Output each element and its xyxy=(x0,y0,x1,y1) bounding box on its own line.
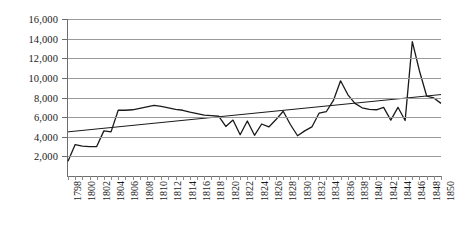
gridline xyxy=(68,137,441,138)
x-axis-tick-label: 1826 xyxy=(273,181,284,201)
x-axis-tick xyxy=(68,176,69,180)
y-axis-tick-label: 14,000 xyxy=(29,33,58,44)
x-axis-tick xyxy=(154,176,155,180)
x-axis-tick xyxy=(355,176,356,180)
x-axis-tick xyxy=(434,176,435,180)
x-axis-tick-label: 1844 xyxy=(402,181,413,201)
y-axis-tick-label: 4,000 xyxy=(34,131,58,142)
x-axis-tick xyxy=(168,176,169,180)
y-axis-tick-label: 10,000 xyxy=(29,72,58,83)
y-axis-tick xyxy=(62,117,68,118)
y-axis-tick-label: 6,000 xyxy=(34,112,58,123)
line-chart: 16,00014,00012,00010,0008,0006,0004,0002… xyxy=(0,0,462,225)
x-axis-tick-label: 1824 xyxy=(259,181,270,201)
x-axis-tick-label: 1848 xyxy=(431,181,442,201)
x-axis-tick xyxy=(362,176,363,180)
y-axis-tick-label: 8,000 xyxy=(34,92,58,103)
x-axis-tick-label: 1828 xyxy=(287,181,298,201)
x-axis-tick-label: 1830 xyxy=(302,181,313,201)
x-axis-tick xyxy=(125,176,126,180)
x-axis-tick-label: 1814 xyxy=(187,181,198,201)
x-axis-tick xyxy=(211,176,212,180)
x-axis-tick-label: 1802 xyxy=(101,181,112,201)
x-axis-tick xyxy=(305,176,306,180)
x-axis-tick xyxy=(376,176,377,180)
y-axis-tick xyxy=(62,137,68,138)
x-axis-tick-label: 1804 xyxy=(115,181,126,201)
y-axis-tick xyxy=(62,156,68,157)
gridline xyxy=(68,156,441,157)
x-axis-tick-label: 1818 xyxy=(215,181,226,201)
y-axis-tick xyxy=(62,98,68,99)
x-axis-tick xyxy=(427,176,428,180)
gridline xyxy=(68,58,441,59)
x-axis-tick xyxy=(276,176,277,180)
x-axis-tick xyxy=(333,176,334,180)
x-axis-tick xyxy=(183,176,184,180)
x-axis-tick-label: 1822 xyxy=(244,181,255,201)
y-axis-tick xyxy=(62,39,68,40)
x-axis-tick xyxy=(405,176,406,180)
x-axis-tick xyxy=(298,176,299,180)
x-axis-tick xyxy=(190,176,191,180)
x-axis-tick xyxy=(341,176,342,180)
x-axis-tick xyxy=(82,176,83,180)
x-axis-tick xyxy=(233,176,234,180)
gridline xyxy=(68,117,441,118)
x-axis-tick xyxy=(197,176,198,180)
gridline xyxy=(68,98,441,99)
x-axis-tick xyxy=(240,176,241,180)
x-axis-tick xyxy=(147,176,148,180)
x-axis-tick-label: 1820 xyxy=(230,181,241,201)
x-axis-tick xyxy=(226,176,227,180)
x-axis-tick-label: 1816 xyxy=(201,181,212,201)
y-axis-tick xyxy=(62,58,68,59)
x-axis-tick-label: 1846 xyxy=(416,181,427,201)
x-axis-tick xyxy=(133,176,134,180)
plot-area xyxy=(68,19,441,176)
x-axis-tick xyxy=(255,176,256,180)
gridline xyxy=(68,19,441,20)
x-axis-tick xyxy=(219,176,220,180)
y-axis-tick xyxy=(62,78,68,79)
gridline xyxy=(68,78,441,79)
x-axis-tick xyxy=(262,176,263,180)
x-axis-tick xyxy=(290,176,291,180)
y-axis-tick-label: 2,000 xyxy=(34,151,58,162)
x-axis-tick xyxy=(419,176,420,180)
x-axis-tick-label: 1842 xyxy=(388,181,399,201)
x-axis-tick xyxy=(412,176,413,180)
x-axis-tick xyxy=(269,176,270,180)
y-axis-tick xyxy=(62,19,68,20)
x-axis-tick xyxy=(283,176,284,180)
gridline xyxy=(68,39,441,40)
x-axis-tick xyxy=(75,176,76,180)
x-axis-tick xyxy=(319,176,320,180)
y-axis-tick-label: 16,000 xyxy=(29,14,58,25)
x-axis-tick xyxy=(161,176,162,180)
x-axis-tick xyxy=(90,176,91,180)
x-axis-tick-label: 1812 xyxy=(172,181,183,201)
x-axis-tick-label: 1840 xyxy=(373,181,384,201)
x-axis-tick-label: 1832 xyxy=(316,181,327,201)
x-axis-tick xyxy=(441,176,442,180)
x-axis-tick xyxy=(118,176,119,180)
x-axis-tick xyxy=(204,176,205,180)
x-axis-tick xyxy=(398,176,399,180)
x-axis-tick xyxy=(140,176,141,180)
x-axis-tick xyxy=(326,176,327,180)
x-axis-tick-label: 1834 xyxy=(330,181,341,201)
x-axis-tick xyxy=(312,176,313,180)
x-axis-tick xyxy=(247,176,248,180)
x-axis-labels: 1798180018021804180618081810181218141816… xyxy=(68,181,442,225)
x-axis-tick-label: 1850 xyxy=(445,181,456,201)
x-axis-tick-label: 1806 xyxy=(129,181,140,201)
x-axis-tick xyxy=(104,176,105,180)
x-axis-tick xyxy=(384,176,385,180)
x-axis-tick-label: 1808 xyxy=(144,181,155,201)
x-axis-tick xyxy=(97,176,98,180)
x-axis-tick-label: 1800 xyxy=(86,181,97,201)
x-axis-tick-label: 1810 xyxy=(158,181,169,201)
x-axis-tick xyxy=(369,176,370,180)
y-axis-labels: 16,00014,00012,00010,0008,0006,0004,0002… xyxy=(0,0,58,225)
